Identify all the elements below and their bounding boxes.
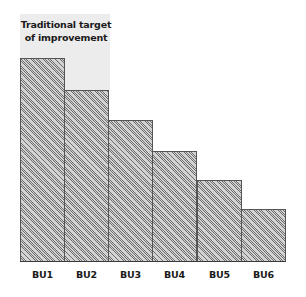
x-tick-label-bu1: BU1 — [20, 269, 65, 280]
x-tick-label-bu6: BU6 — [241, 269, 286, 280]
x-axis-baseline — [20, 261, 286, 262]
plot-area: Traditional target of improvement BU1 BU… — [0, 0, 306, 297]
x-tick-label-bu4: BU4 — [152, 269, 197, 280]
x-tick-label-bu5: BU5 — [197, 269, 242, 280]
bar-bu5 — [197, 180, 242, 262]
bar-bu1 — [20, 58, 65, 262]
traditional-target-callout-label: Traditional target of improvement — [20, 19, 112, 44]
bar-bu6 — [241, 209, 286, 262]
bar-chart: Traditional target of improvement BU1 BU… — [0, 0, 306, 297]
bar-bu2 — [64, 90, 109, 262]
bars-layer — [0, 0, 306, 297]
x-tick-label-bu3: BU3 — [108, 269, 153, 280]
x-tick-label-bu2: BU2 — [64, 269, 109, 280]
bar-bu3 — [108, 120, 153, 262]
bar-bu4 — [152, 151, 197, 262]
